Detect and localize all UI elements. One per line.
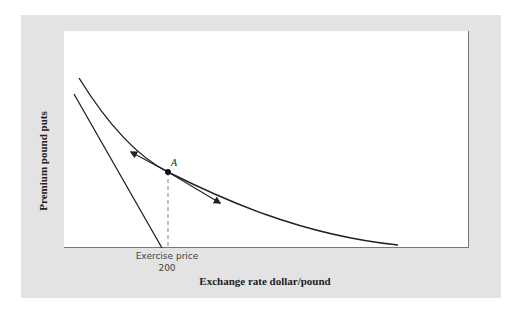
option-value-curve [79, 78, 398, 245]
exercise-price-value: 200 [136, 262, 199, 274]
point-a-label: A [171, 157, 177, 168]
y-axis-label: Premium pound puts [37, 111, 49, 210]
x-axis-label: Exchange rate dollar/pound [199, 275, 330, 287]
tangent-arrow-line-2 [168, 172, 220, 203]
tangent-arrow-line [131, 152, 168, 172]
point-a-marker [165, 169, 171, 175]
chart-svg [0, 0, 526, 320]
intrinsic-value-line [74, 94, 162, 248]
exercise-price-label: Exercise price 200 [136, 250, 199, 274]
exercise-price-text: Exercise price [136, 250, 199, 262]
